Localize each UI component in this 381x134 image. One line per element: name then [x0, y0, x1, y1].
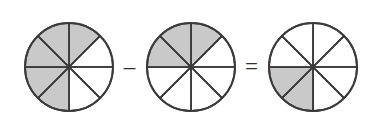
pie-svg-subtrahend [143, 19, 239, 115]
fraction-subtraction-figure: – = [0, 0, 381, 134]
pie-svg-minuend [21, 19, 117, 115]
equation-row: – = [0, 0, 381, 134]
pie-chart-difference [265, 17, 361, 117]
minus-operator: – [117, 55, 143, 80]
pie-svg-difference [265, 19, 361, 115]
pie-chart-subtrahend [143, 17, 239, 117]
pie-chart-minuend [21, 17, 117, 117]
equals-operator: = [239, 55, 265, 80]
